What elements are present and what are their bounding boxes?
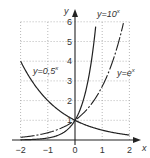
x-tick-label: −2 xyxy=(15,145,25,155)
x-tick-label: 2 xyxy=(127,145,132,155)
y-tick-label: 1 xyxy=(67,115,72,125)
x-tick-label: −1 xyxy=(43,145,53,155)
y-tick-label: 3 xyxy=(67,76,72,86)
y-tick-label: 6 xyxy=(67,17,72,27)
x-axis-label: x xyxy=(141,143,147,153)
x-tick-label: 1 xyxy=(100,145,105,155)
y-tick-label: 5 xyxy=(67,37,72,47)
x-tick-labels: −2−1012 xyxy=(15,145,131,155)
y-axis-arrow-icon xyxy=(72,9,78,17)
x-tick-label: 0 xyxy=(72,145,77,155)
y-tick-label: 2 xyxy=(67,96,72,106)
exponential-functions-chart: x y −2−1012 123456 y=10x y=0,5x y=ex xyxy=(0,0,150,158)
chart-canvas: x y −2−1012 123456 y=10x y=0,5x y=ex xyxy=(0,0,150,158)
y-axis-label: y xyxy=(63,6,69,16)
label-05x: y=0,5x xyxy=(32,65,59,76)
y-tick-label: 4 xyxy=(67,56,72,66)
label-10x: y=10x xyxy=(96,8,121,19)
label-ex: y=ex xyxy=(116,67,136,78)
y-tick-labels: 123456 xyxy=(67,17,72,126)
curve-10x xyxy=(21,27,96,140)
x-axis-arrow-icon xyxy=(133,137,141,143)
